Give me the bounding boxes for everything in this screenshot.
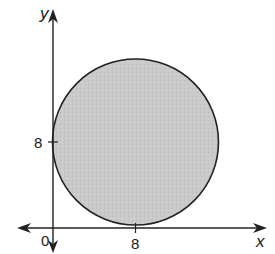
coordinate-diagram: y x 0 8 8 (0, 0, 275, 254)
shaded-circle (53, 59, 219, 225)
x-axis-label: x (255, 232, 265, 251)
x-tick-label: 8 (131, 235, 139, 252)
origin-label: 0 (41, 232, 49, 249)
y-axis-label: y (39, 4, 50, 23)
y-tick-label: 8 (34, 134, 42, 151)
